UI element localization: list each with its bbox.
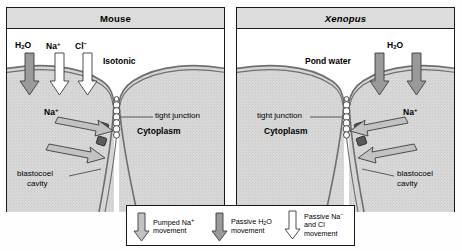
label-cavity: cavity <box>27 180 47 189</box>
panel-xenopus-title: Xenopus <box>237 8 454 29</box>
legend-arrow-passive-na-cl-icon <box>284 209 301 241</box>
legend-arrow-passive-h2o-icon <box>211 211 228 243</box>
cytoplasm-right <box>119 66 224 212</box>
legend-item-pumped-na: Pumped Na+movement <box>133 210 194 243</box>
panel-xenopus: Xenopus <box>236 7 455 212</box>
panel-mouse: Mouse <box>6 7 225 212</box>
label-tight-junction: tight junction <box>257 112 302 121</box>
label-na-pump: Na+ <box>403 107 417 118</box>
legend-item-passive-h2o: Passive H2Omovement <box>211 210 272 243</box>
legend-label-passive-na-cl: Passive Na−and Clmovement <box>304 211 344 238</box>
panel-xenopus-body: H2O Pond water tight junction Cytoplasm … <box>237 29 454 212</box>
legend-label-passive-h2o: Passive H2Omovement <box>231 218 272 235</box>
legend-box: Pumped Na+movement Passive H2Omovement P… <box>126 205 355 246</box>
legend-label-pumped-na: Pumped Na+movement <box>153 217 194 236</box>
label-h2o-apical: H2O <box>15 41 31 51</box>
label-pond-water: Pond water <box>305 57 351 67</box>
panel-mouse-body: H2O Na+ Cl− Isotonic tight junction Cyto… <box>7 29 224 212</box>
label-tight-junction: tight junction <box>155 112 200 121</box>
cytoplasm-left <box>237 66 344 212</box>
legend-item-passive-na-cl: Passive Na−and Clmovement <box>284 208 344 241</box>
label-cytoplasm: Cytoplasm <box>264 127 307 137</box>
label-na-apical: Na+ <box>46 41 60 52</box>
label-cavity: cavity <box>397 180 417 189</box>
legend-arrow-pumped-na-icon <box>133 211 150 243</box>
tight-junction-braid <box>343 97 350 139</box>
label-cl-apical: Cl− <box>75 41 87 52</box>
tight-junction-braid <box>113 97 120 139</box>
label-isotonic: Isotonic <box>103 57 136 67</box>
label-cytoplasm: Cytoplasm <box>137 127 180 137</box>
label-h2o-apical: H2O <box>387 41 403 51</box>
label-blastocoel: blastocoel <box>397 170 433 179</box>
label-na-pump: Na+ <box>44 107 58 118</box>
figure-canvas: Mouse <box>0 0 462 251</box>
label-blastocoel: blastocoel <box>17 170 53 179</box>
panel-mouse-title: Mouse <box>7 8 224 29</box>
